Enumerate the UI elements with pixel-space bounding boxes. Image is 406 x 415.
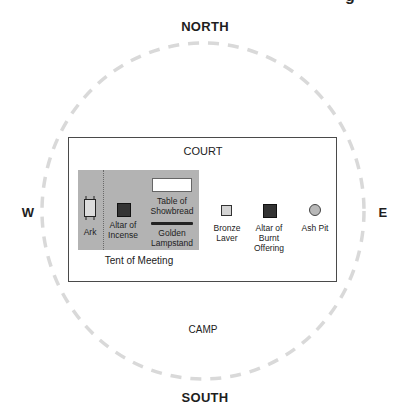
altar-of-incense-label-1: Altar of [110,220,137,230]
table-of-showbread-label-2: Showbread [150,206,193,216]
golden-lampstand-icon [151,222,193,225]
camp-label: CAMP [189,324,218,335]
altar-of-incense-icon [117,203,131,217]
west-label: W [22,205,35,220]
ash-pit-label: Ash Pit [302,223,329,233]
bronze-laver-label-2: Laver [216,233,237,243]
bronze-laver-icon [221,205,232,216]
altar-of-incense-label-2: Incense [108,230,138,240]
ash-pit-icon [309,204,321,216]
golden-lampstand-label-1: Golden [158,228,185,238]
table-of-showbread-icon [152,178,192,192]
north-label: NORTH [181,19,229,34]
court-label: COURT [184,145,223,157]
altar-of-burnt-offering-icon [263,204,277,218]
east-label: E [379,205,388,220]
altar-of-burnt-offering-label-1: Altar of [256,223,283,233]
veil-divider [103,170,104,250]
altar-of-burnt-offering-label-2: Burnt [259,233,279,243]
ark-icon [82,196,98,220]
ark-label: Ark [84,227,97,237]
tent-label: Tent of Meeting [105,255,173,266]
golden-lampstand-label-2: Lampstand [151,238,193,248]
south-label: SOUTH [182,390,229,405]
bronze-laver-label-1: Bronze [214,223,241,233]
table-of-showbread-label-1: Table of [157,196,187,206]
altar-of-burnt-offering-label-3: Offering [254,243,284,253]
